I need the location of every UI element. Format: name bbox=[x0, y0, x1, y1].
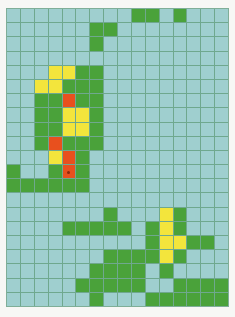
grid-cell-empty[interactable] bbox=[201, 37, 214, 50]
grid-cell-empty[interactable] bbox=[215, 123, 228, 136]
grid-cell-green[interactable] bbox=[132, 279, 145, 292]
grid-cell-empty[interactable] bbox=[7, 193, 20, 206]
grid-cell-empty[interactable] bbox=[63, 52, 76, 65]
grid-cell-empty[interactable] bbox=[118, 123, 131, 136]
grid-cell-green[interactable] bbox=[90, 222, 103, 235]
grid-cell-empty[interactable] bbox=[174, 80, 187, 93]
grid-cell-empty[interactable] bbox=[215, 208, 228, 221]
grid-cell-empty[interactable] bbox=[187, 250, 200, 263]
grid-cell-empty[interactable] bbox=[146, 66, 159, 79]
grid-cell-empty[interactable] bbox=[132, 208, 145, 221]
grid-cell-empty[interactable] bbox=[215, 94, 228, 107]
grid-cell-green[interactable] bbox=[49, 165, 62, 178]
grid-cell-empty[interactable] bbox=[146, 279, 159, 292]
grid-cell-empty[interactable] bbox=[215, 264, 228, 277]
grid-cell-empty[interactable] bbox=[35, 23, 48, 36]
grid-cell-empty[interactable] bbox=[146, 264, 159, 277]
grid-cell-empty[interactable] bbox=[104, 66, 117, 79]
grid-cell-empty[interactable] bbox=[76, 193, 89, 206]
grid-cell-empty[interactable] bbox=[174, 264, 187, 277]
grid-cell-empty[interactable] bbox=[201, 179, 214, 192]
grid-cell-empty[interactable] bbox=[35, 264, 48, 277]
grid-cell-green[interactable] bbox=[146, 9, 159, 22]
grid-cell-empty[interactable] bbox=[90, 52, 103, 65]
grid-cell-empty[interactable] bbox=[132, 52, 145, 65]
grid-cell-empty[interactable] bbox=[118, 179, 131, 192]
grid-cell-green[interactable] bbox=[90, 293, 103, 306]
grid-cell-empty[interactable] bbox=[63, 208, 76, 221]
grid-cell-red[interactable] bbox=[63, 165, 76, 178]
grid-cell-empty[interactable] bbox=[49, 279, 62, 292]
grid-cell-empty[interactable] bbox=[63, 264, 76, 277]
grid-cell-green[interactable] bbox=[35, 94, 48, 107]
grid-cell-empty[interactable] bbox=[90, 193, 103, 206]
grid-cell-yellow[interactable] bbox=[76, 108, 89, 121]
grid-cell-empty[interactable] bbox=[118, 208, 131, 221]
grid-cell-green[interactable] bbox=[90, 23, 103, 36]
grid-cell-empty[interactable] bbox=[160, 123, 173, 136]
grid-cell-empty[interactable] bbox=[187, 165, 200, 178]
grid-cell-empty[interactable] bbox=[35, 236, 48, 249]
grid-cell-red[interactable] bbox=[63, 151, 76, 164]
grid-cell-yellow[interactable] bbox=[35, 80, 48, 93]
grid-cell-empty[interactable] bbox=[21, 193, 34, 206]
grid-cell-empty[interactable] bbox=[187, 208, 200, 221]
grid-cell-empty[interactable] bbox=[90, 165, 103, 178]
grid-cell-green[interactable] bbox=[174, 222, 187, 235]
grid-cell-green[interactable] bbox=[76, 94, 89, 107]
grid-cell-green[interactable] bbox=[104, 222, 117, 235]
grid-cell-empty[interactable] bbox=[49, 293, 62, 306]
grid-cell-empty[interactable] bbox=[215, 165, 228, 178]
grid-cell-empty[interactable] bbox=[201, 137, 214, 150]
grid-cell-empty[interactable] bbox=[21, 137, 34, 150]
grid-cell-empty[interactable] bbox=[104, 9, 117, 22]
grid-cell-empty[interactable] bbox=[63, 293, 76, 306]
grid-cell-empty[interactable] bbox=[187, 222, 200, 235]
grid-cell-empty[interactable] bbox=[118, 80, 131, 93]
grid-cell-green[interactable] bbox=[201, 279, 214, 292]
grid-cell-green[interactable] bbox=[174, 293, 187, 306]
grid-cell-empty[interactable] bbox=[76, 236, 89, 249]
grid-cell-yellow[interactable] bbox=[160, 236, 173, 249]
grid-cell-green[interactable] bbox=[63, 137, 76, 150]
grid-cell-red[interactable] bbox=[49, 137, 62, 150]
grid-cell-green[interactable] bbox=[49, 108, 62, 121]
grid-cell-green[interactable] bbox=[146, 236, 159, 249]
grid-cell-empty[interactable] bbox=[118, 151, 131, 164]
grid-cell-empty[interactable] bbox=[146, 94, 159, 107]
grid-cell-empty[interactable] bbox=[146, 52, 159, 65]
grid-cell-green[interactable] bbox=[90, 279, 103, 292]
grid-cell-yellow[interactable] bbox=[160, 208, 173, 221]
grid-cell-empty[interactable] bbox=[118, 37, 131, 50]
grid-cell-empty[interactable] bbox=[132, 37, 145, 50]
grid-cell-empty[interactable] bbox=[35, 193, 48, 206]
grid-cell-empty[interactable] bbox=[174, 66, 187, 79]
grid-cell-empty[interactable] bbox=[187, 37, 200, 50]
grid-cell-empty[interactable] bbox=[104, 193, 117, 206]
grid-cell-empty[interactable] bbox=[132, 66, 145, 79]
grid-cell-green[interactable] bbox=[76, 179, 89, 192]
grid-cell-green[interactable] bbox=[76, 279, 89, 292]
grid-cell-empty[interactable] bbox=[215, 108, 228, 121]
grid-cell-empty[interactable] bbox=[49, 250, 62, 263]
grid-cell-empty[interactable] bbox=[90, 208, 103, 221]
grid-cell-empty[interactable] bbox=[215, 250, 228, 263]
grid-cell-empty[interactable] bbox=[187, 108, 200, 121]
grid-cell-empty[interactable] bbox=[63, 236, 76, 249]
grid-cell-empty[interactable] bbox=[118, 23, 131, 36]
grid-cell-empty[interactable] bbox=[174, 108, 187, 121]
grid-cell-green[interactable] bbox=[35, 137, 48, 150]
grid-cell-empty[interactable] bbox=[187, 52, 200, 65]
grid-cell-green[interactable] bbox=[63, 222, 76, 235]
grid-cell-empty[interactable] bbox=[49, 222, 62, 235]
grid-cell-empty[interactable] bbox=[104, 293, 117, 306]
grid-cell-empty[interactable] bbox=[7, 236, 20, 249]
grid-cell-yellow[interactable] bbox=[49, 151, 62, 164]
grid-cell-yellow[interactable] bbox=[63, 108, 76, 121]
grid-cell-empty[interactable] bbox=[104, 52, 117, 65]
grid-cell-empty[interactable] bbox=[160, 179, 173, 192]
grid-cell-empty[interactable] bbox=[187, 179, 200, 192]
grid-cell-yellow[interactable] bbox=[160, 250, 173, 263]
grid-cell-green[interactable] bbox=[104, 23, 117, 36]
grid-cell-empty[interactable] bbox=[35, 279, 48, 292]
